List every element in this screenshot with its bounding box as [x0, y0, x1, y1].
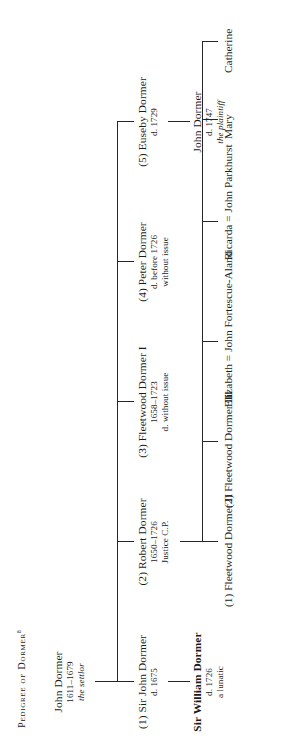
node-child-1: (1) Sir John Dormer d. 1675 — [136, 620, 160, 744]
grandchild-label: Mary — [222, 114, 234, 139]
node-dates: d. 1675 — [149, 620, 160, 744]
node-dates: d. 1747 — [204, 60, 215, 184]
node-name: Sir William Dormer — [191, 620, 204, 744]
grandchild-label: Elizabeth = John Fortescue-Aland — [222, 252, 234, 407]
node-dates: d. 1729 — [149, 60, 160, 184]
node-note: a lunatic — [215, 620, 226, 744]
page-title-text: Pedigree of Dormer — [16, 633, 27, 728]
connector-root-stem — [95, 681, 117, 682]
node-dates: d. before 1726 — [149, 200, 160, 324]
grandchild-4: Ricarda = John Parkhurst — [222, 144, 234, 260]
grandchild-label: Ricarda = John Parkhurst — [222, 144, 234, 260]
grandchild-label: (2) Fleetwood Dormer III — [222, 391, 234, 508]
node-dates: d. 1726 — [204, 620, 215, 744]
node-child-5: (5) Euseby Dormer d. 1729 — [136, 60, 160, 184]
connector-euseby-to-john — [168, 121, 190, 122]
page-title: Pedigree of Dormer8 — [16, 629, 27, 728]
connector-child-3-drop — [117, 401, 134, 402]
node-name: (1) Sir John Dormer — [136, 620, 149, 744]
grandchild-3: Elizabeth = John Fortescue-Aland — [222, 252, 234, 407]
connector-child-4-drop — [117, 261, 134, 262]
page-title-footnote-marker: 8 — [16, 629, 22, 633]
connector-robert-stem — [180, 541, 202, 542]
node-name: John Dormer — [191, 60, 204, 184]
grandchild-label: Catherine — [222, 29, 234, 73]
grandchild-1: (1) Fleetwood Dormer II — [222, 494, 234, 607]
node-note: without issue — [160, 200, 171, 324]
node-child-3: (3) Fleetwood Dormer I 1658–1723 d. with… — [136, 340, 171, 464]
connector-child-1-to-william — [168, 681, 190, 682]
connector-children-spine — [117, 122, 118, 682]
node-sir-william-dormer: Sir William Dormer d. 1726 a lunatic — [191, 620, 226, 744]
node-name: John Dormer — [52, 622, 65, 742]
grandchild-5: Mary — [222, 114, 234, 139]
connector-child-2-drop — [117, 541, 134, 542]
node-name: (2) Robert Dormer — [136, 480, 149, 604]
grandchild-6: Catherine — [222, 29, 234, 73]
connector-child-5-drop — [117, 121, 134, 122]
node-child-4: (4) Peter Dormer d. before 1726 without … — [136, 200, 171, 324]
pedigree-chart: Pedigree of Dormer8 John Dormer 1611–167… — [0, 0, 290, 752]
connector-grandchild-4-drop — [202, 221, 218, 222]
node-root-john-dormer: John Dormer 1611–1679 the settlor — [52, 622, 87, 742]
node-dates: 1611–1679 — [65, 622, 76, 742]
connector-grandchild-2-drop — [202, 441, 218, 442]
connector-grandchild-3-drop — [202, 341, 218, 342]
node-dates: 1658–1723 — [149, 340, 160, 464]
node-note: the settlor — [76, 622, 87, 742]
node-john-dormer-plaintiff: John Dormer d. 1747 the plaintiff — [191, 60, 226, 184]
node-note: Justice C.P. — [160, 480, 171, 604]
node-dates: 1650–1726 — [149, 480, 160, 604]
connector-child-1-drop — [117, 681, 134, 682]
connector-grandchild-6-drop — [202, 41, 218, 42]
node-name: (3) Fleetwood Dormer I — [136, 340, 149, 464]
node-name: (5) Euseby Dormer — [136, 60, 149, 184]
connector-grandchild-1-drop — [202, 541, 218, 542]
grandchild-label: (1) Fleetwood Dormer II — [222, 494, 234, 607]
node-child-2: (2) Robert Dormer 1650–1726 Justice C.P. — [136, 480, 171, 604]
node-name: (4) Peter Dormer — [136, 200, 149, 324]
grandchild-2: (2) Fleetwood Dormer III — [222, 391, 234, 508]
node-note: d. without issue — [160, 340, 171, 464]
